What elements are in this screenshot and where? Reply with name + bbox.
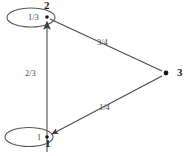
node-dot-3: [164, 71, 169, 76]
self-loop-weight-node-2: 1/3: [28, 13, 39, 22]
edge-weight-2-to-3: 3/4: [97, 38, 108, 47]
node-dot-2: [45, 15, 49, 19]
node-label-1: 1: [45, 138, 51, 149]
markov-chain-diagram: 2 1 3 1/3 1 2/3 3/4 1/4: [0, 0, 193, 156]
node-label-3: 3: [177, 67, 183, 78]
edge-weight-3-to-1: 1/4: [99, 103, 110, 112]
graph-canvas: [0, 0, 193, 156]
edge-weight-1-to-2: 2/3: [25, 69, 36, 78]
node-label-2: 2: [44, 0, 50, 11]
self-loop-weight-node-1: 1: [37, 133, 41, 142]
